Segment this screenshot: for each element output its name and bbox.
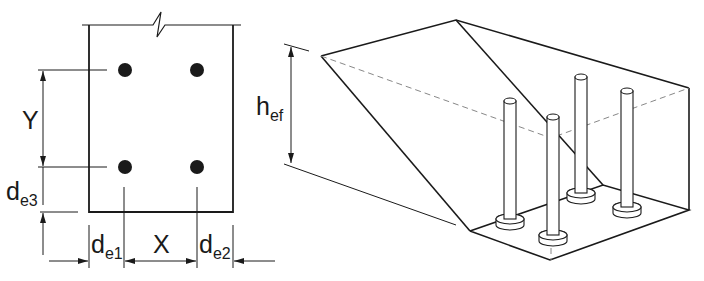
anchor-dot [190,160,204,174]
anchor-diagram: Y de3 de1 X de2 [0,0,704,281]
de3-dimension [40,167,78,255]
hef-dimension [284,44,456,225]
anchor-dot [118,63,132,77]
anchor-dot [118,160,132,174]
de1-label: de1 [91,230,123,262]
member-top-break-line [82,12,241,37]
anchor-bolt [567,74,595,204]
de2-label: de2 [199,230,231,262]
de3-label: de3 [6,177,38,209]
isometric-view [284,20,689,260]
anchor-dot [190,63,204,77]
x-spacing-label: X [153,230,170,258]
anchor-bolt [613,88,641,218]
hef-label: hef [256,92,284,124]
anchor-bolt [539,114,567,246]
anchor-dots [118,63,204,174]
anchor-bolt [496,98,524,230]
anchor-bolts [496,74,641,246]
y-dimension [38,70,107,167]
member-outline [89,25,233,212]
y-spacing-label: Y [22,106,39,134]
